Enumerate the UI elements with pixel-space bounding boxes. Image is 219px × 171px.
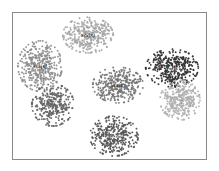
- cluster-upper-left: [17, 40, 62, 92]
- cluster-top-center: [62, 16, 114, 53]
- cluster-bottom-center: [90, 115, 139, 157]
- scatter-plot: [0, 0, 219, 171]
- cluster-center: [92, 67, 144, 104]
- cluster-lower-right: [159, 79, 200, 121]
- cluster-upper-right: [145, 48, 199, 88]
